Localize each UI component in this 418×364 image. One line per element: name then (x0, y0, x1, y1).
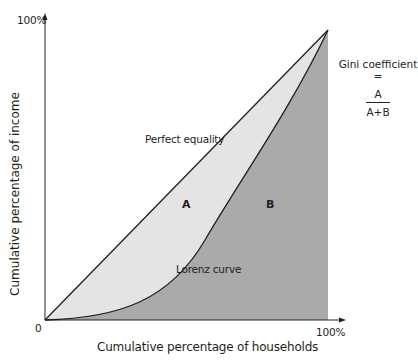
lorenz-curve-label: Lorenz curve (176, 263, 241, 275)
gini-fraction: A A+B (366, 88, 389, 118)
x-axis-arrow-icon (339, 318, 346, 323)
gini-numerator: A (366, 88, 389, 103)
gini-denominator: A+B (366, 103, 389, 118)
x-axis-title: Cumulative percentage of households (97, 340, 318, 354)
lorenz-chart (0, 0, 418, 364)
x-axis-tick-100: 100% (316, 326, 345, 338)
y-axis-tick-100: 100% (17, 14, 46, 26)
perfect-equality-label: Perfect equality (145, 133, 224, 145)
region-a-label: A (182, 198, 190, 211)
origin-label: 0 (35, 322, 41, 334)
gini-title: Gini coefficient = (338, 58, 418, 82)
gini-formula: Gini coefficient = A A+B (338, 58, 418, 118)
region-b-label: B (266, 198, 274, 211)
y-axis-title: Cumulative percentage of income (8, 92, 22, 296)
